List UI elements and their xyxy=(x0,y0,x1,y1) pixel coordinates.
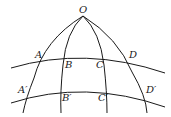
label-o: O xyxy=(79,4,87,15)
parallel-upper xyxy=(11,58,165,73)
meridian-a xyxy=(23,16,83,113)
sphere-grid-diagram: O A B C D A′ B′ C′ D′ xyxy=(0,0,171,117)
label-b: B xyxy=(64,59,72,70)
label-c-prime: C′ xyxy=(98,92,109,103)
label-c: C xyxy=(96,59,104,70)
label-b-prime: B′ xyxy=(61,92,72,103)
label-a-prime: A′ xyxy=(17,84,28,95)
parallel-lower xyxy=(11,92,165,107)
label-d: D xyxy=(128,49,137,60)
label-a: A xyxy=(34,49,42,60)
label-d-prime: D′ xyxy=(145,84,157,95)
diagram-svg: O A B C D A′ B′ C′ D′ xyxy=(0,0,171,117)
